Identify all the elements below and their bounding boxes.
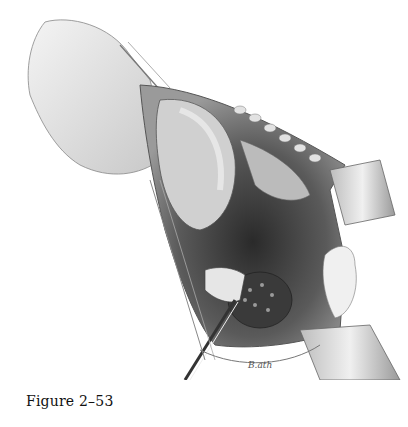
- retractor-upper: [330, 160, 395, 225]
- figure-caption: Figure 2–53: [26, 393, 114, 409]
- artist-signature: B.ath: [247, 360, 272, 370]
- retractor-lower: [300, 325, 400, 380]
- surgical-illustration: B.ath: [0, 0, 408, 380]
